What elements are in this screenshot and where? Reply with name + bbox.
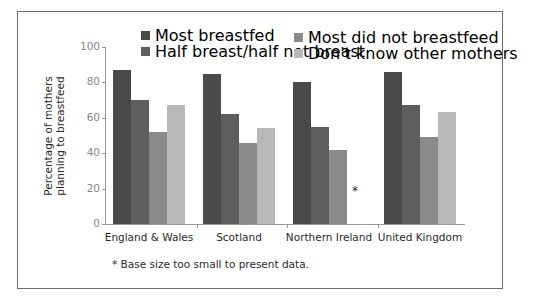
x-tick-label: United Kingdom: [375, 231, 465, 243]
y-axis-title: Percentage of mothers planning to breast…: [42, 56, 66, 216]
y-tick-mark: [102, 82, 106, 83]
annotation-asterisk: *: [352, 184, 358, 198]
bar: [384, 72, 402, 224]
bar: [293, 82, 311, 224]
legend-swatch: [294, 49, 303, 58]
y-tick-mark: [102, 47, 106, 48]
legend-item: Most breastfed: [141, 28, 275, 42]
bar: [113, 70, 131, 224]
y-tick-label: 60: [76, 111, 100, 123]
bar: [131, 100, 149, 224]
y-axis-line: [105, 47, 106, 225]
y-axis-title-line-2: planning to breastfeed: [54, 56, 66, 216]
legend-item: Don't know other mothers: [294, 46, 518, 60]
y-tick-label: 0: [76, 217, 100, 229]
x-axis-line: [105, 224, 465, 225]
x-tick-mark: [197, 224, 198, 228]
x-tick-label: England & Wales: [104, 231, 194, 243]
bar: [402, 105, 420, 224]
bar: [149, 132, 167, 224]
bar: [311, 127, 329, 224]
y-tick-label: 40: [76, 146, 100, 158]
bar: [257, 128, 275, 224]
y-tick-label: 80: [76, 75, 100, 87]
bar: [203, 74, 221, 224]
legend-item: Most did not breastfeed: [294, 30, 499, 44]
y-tick-mark: [102, 153, 106, 154]
bar: [167, 105, 185, 224]
y-tick-label: 20: [76, 182, 100, 194]
legend-swatch: [141, 47, 150, 56]
bar: [239, 143, 257, 224]
legend-swatch: [294, 33, 303, 42]
y-tick-mark: [102, 118, 106, 119]
legend-label: Don't know other mothers: [308, 44, 518, 63]
footnote: * Base size too small to present data.: [112, 258, 309, 270]
x-tick-label: Scotland: [194, 231, 284, 243]
x-tick-label: Northern Ireland: [284, 231, 374, 243]
x-tick-mark: [378, 224, 379, 228]
bar: [221, 114, 239, 224]
bar: [438, 112, 456, 224]
y-tick-label: 100: [76, 40, 100, 52]
y-tick-mark: [102, 224, 106, 225]
y-tick-mark: [102, 189, 106, 190]
bar: [420, 137, 438, 224]
legend-swatch: [141, 31, 150, 40]
x-tick-mark: [287, 224, 288, 228]
y-axis-title-line-1: Percentage of mothers: [42, 56, 54, 216]
bar: [329, 150, 347, 224]
